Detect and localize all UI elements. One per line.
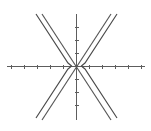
hyperbola-figure: [0, 0, 151, 131]
plot-canvas: [0, 0, 151, 131]
